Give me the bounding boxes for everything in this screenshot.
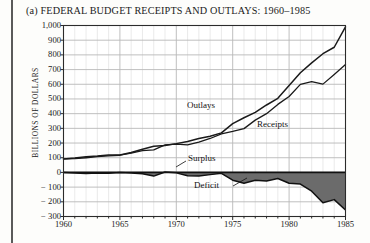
series-label-outlays: Outlays (187, 100, 215, 110)
annotation-label-deficit: Deficit (194, 180, 219, 190)
series-label-receipts: Receipts (257, 119, 288, 129)
chart-svg (0, 0, 370, 243)
figure-panel: (a) FEDERAL BUDGET RECEIPTS AND OUTLAYS:… (0, 0, 370, 243)
annotation-label-surplus: Surplus (188, 153, 216, 163)
plot-area (0, 0, 370, 243)
